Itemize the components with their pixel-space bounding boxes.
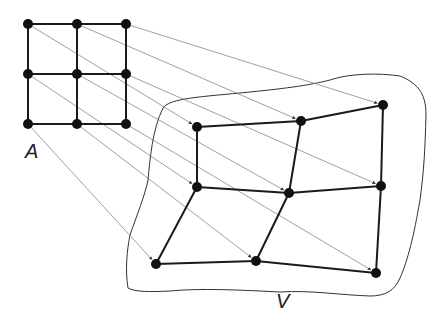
- mapping-arrow: [77, 124, 251, 257]
- mapping-arrow: [126, 124, 371, 270]
- target-edge: [256, 261, 376, 273]
- source-node: [72, 69, 82, 79]
- target-node: [378, 100, 388, 110]
- target-node: [151, 259, 161, 269]
- source-node: [23, 19, 33, 29]
- source-node: [72, 119, 82, 129]
- target-node: [284, 188, 294, 198]
- target-edge: [197, 121, 301, 127]
- target-edge: [289, 121, 301, 193]
- source-node: [72, 19, 82, 29]
- source-node: [121, 19, 131, 29]
- target-edge: [301, 105, 383, 121]
- target-node: [192, 182, 202, 192]
- source-node: [121, 119, 131, 129]
- mapping-arrow: [28, 74, 192, 184]
- label-V: V: [276, 290, 289, 313]
- target-edge: [156, 261, 256, 264]
- target-node: [371, 268, 381, 278]
- source-node: [23, 69, 33, 79]
- target-edge: [289, 186, 381, 193]
- target-node: [251, 256, 261, 266]
- label-A: A: [25, 140, 38, 163]
- target-node: [376, 181, 386, 191]
- target-edge: [156, 187, 197, 264]
- mapping-diagram: [0, 0, 445, 322]
- target-edge: [197, 187, 289, 193]
- target-edge: [376, 186, 381, 273]
- mapping-arrows: [28, 24, 377, 270]
- mapping-arrow: [126, 24, 377, 103]
- target-grid-edges: [156, 105, 383, 273]
- target-node: [296, 116, 306, 126]
- target-edge: [256, 193, 289, 261]
- mapping-arrow: [77, 24, 295, 119]
- target-node: [192, 122, 202, 132]
- mapping-arrow: [126, 74, 376, 184]
- source-node: [121, 69, 131, 79]
- target-edge: [381, 105, 383, 186]
- source-node: [23, 119, 33, 129]
